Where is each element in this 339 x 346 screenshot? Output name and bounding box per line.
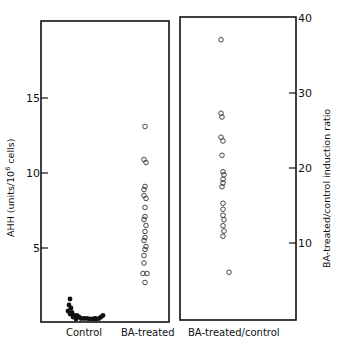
- data-point-control: [68, 297, 73, 302]
- data-point-ba-treated: [144, 244, 149, 249]
- data-point-ratio: [219, 37, 224, 42]
- data-point-ratio: [221, 213, 226, 218]
- data-point-ratio: [221, 223, 226, 228]
- series-ratio-points: [219, 37, 232, 274]
- figure: 51015 10203040 AHH (units/106 cells) BA-…: [0, 0, 339, 346]
- data-point-ba-treated: [142, 253, 147, 258]
- category-label-control: Control: [66, 327, 102, 338]
- data-point-ratio: [222, 229, 227, 234]
- right-tick-label: 30: [298, 87, 312, 100]
- data-point-ratio: [221, 234, 226, 239]
- data-point-ba-treated: [143, 280, 148, 285]
- right-tick-label: 10: [298, 237, 312, 250]
- data-point-ba-treated: [142, 217, 147, 222]
- data-point-ratio: [221, 169, 226, 174]
- data-point-ba-treated: [142, 238, 147, 243]
- data-point-ratio: [222, 172, 227, 177]
- left-panel-frame: [41, 21, 169, 322]
- right-y-axis-title: BA-treated/control induction ratio: [321, 109, 332, 268]
- category-label-ba-treated: BA-treated: [121, 327, 175, 338]
- data-point-ba-treated: [143, 229, 148, 234]
- right-tick-label: 20: [298, 162, 312, 175]
- left-tick-label: 15: [26, 92, 40, 105]
- data-point-ratio: [227, 270, 232, 275]
- data-point-ba-treated: [143, 205, 148, 210]
- left-y-axis-title: AHH (units/106 cells): [4, 139, 16, 237]
- data-point-control: [93, 316, 98, 321]
- data-point-ba-treated: [142, 261, 147, 266]
- data-point-ba-treated: [144, 223, 149, 228]
- data-point-control: [101, 313, 106, 318]
- data-point-ba-treated: [143, 214, 148, 219]
- data-point-ratio: [220, 153, 225, 158]
- data-point-ba-treated: [143, 235, 148, 240]
- data-point-ratio: [221, 139, 226, 144]
- data-point-ba-treated: [143, 247, 148, 252]
- data-point-ratio: [221, 201, 226, 206]
- data-point-ba-treated: [142, 187, 147, 192]
- left-tick-label: 10: [26, 167, 40, 180]
- data-point-ba-treated: [143, 124, 148, 129]
- series-control-points: [66, 297, 106, 322]
- series-ba-treated-points: [141, 124, 150, 285]
- right-panel-frame: [180, 17, 296, 320]
- right-y-axis-ticks: 10203040: [289, 12, 312, 250]
- category-label-ratio: BA-treated/control: [188, 327, 280, 338]
- data-point-ratio: [222, 217, 227, 222]
- data-point-control: [74, 317, 79, 322]
- data-point-ratio: [221, 207, 226, 212]
- data-point-ba-treated: [143, 184, 148, 189]
- right-tick-label: 40: [298, 12, 312, 25]
- left-y-axis-ticks: 51015: [26, 92, 48, 255]
- left-tick-label: 5: [33, 242, 40, 255]
